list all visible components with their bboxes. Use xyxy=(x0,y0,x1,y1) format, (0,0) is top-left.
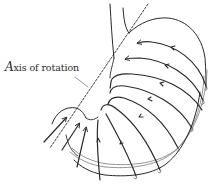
arc-arrowheads xyxy=(97,46,175,144)
axis-of-rotation-label: Axis of rotation xyxy=(5,60,79,74)
pylorus-arrows xyxy=(44,118,86,167)
label-leader-line xyxy=(75,77,88,87)
fiber-end-loops xyxy=(134,86,207,179)
esophagus xyxy=(110,4,129,58)
label-initial: A xyxy=(5,60,14,74)
label-rest: xis of rotation xyxy=(14,62,79,73)
axis-of-rotation-line xyxy=(50,4,148,148)
stomach-outline xyxy=(52,18,207,176)
diagram-drawing xyxy=(0,0,215,189)
stomach-rotation-diagram: Axis of rotation xyxy=(0,0,215,189)
